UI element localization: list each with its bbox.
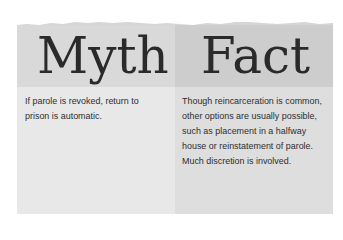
fact-title: Fact — [201, 27, 333, 85]
myth-title: Myth — [37, 27, 175, 85]
myth-fact-panel: Myth If parole is revoked, return to pri… — [17, 25, 333, 214]
myth-column: Myth If parole is revoked, return to pri… — [17, 25, 175, 214]
fact-text: Though reincarceration is common, other … — [182, 93, 322, 168]
myth-header: Myth — [17, 25, 175, 87]
fact-header: Fact — [175, 25, 333, 87]
myth-text: If parole is revoked, return to prison i… — [25, 93, 160, 123]
fact-column: Fact Though reincarceration is common, o… — [175, 25, 333, 214]
